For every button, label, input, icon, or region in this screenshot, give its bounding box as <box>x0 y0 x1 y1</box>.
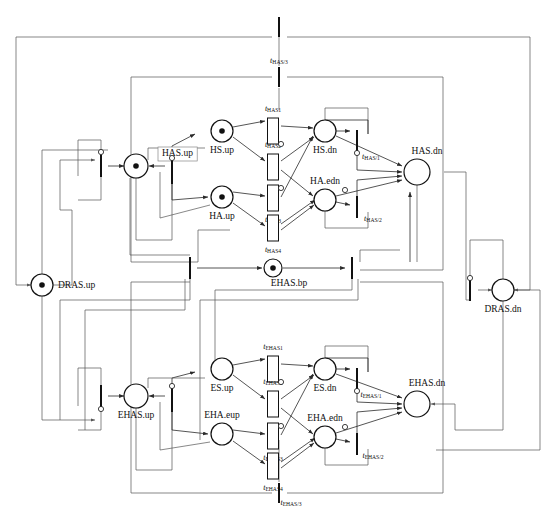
token-dot <box>39 282 45 288</box>
transition-t_hasr2[interactable]: tHAS/2 <box>357 196 382 224</box>
ehas-bp-arcs <box>60 230 400 440</box>
ehas-dn-arcs <box>325 346 402 465</box>
transition-t_hasr1[interactable]: tHAS/1 <box>357 130 380 162</box>
place-label: EHA.eup <box>204 410 240 420</box>
petri-net-canvas: HAS.upHS.upHA.upHS.dnHA.ednHAS.dnDRAS.up… <box>0 0 546 515</box>
token-dot <box>219 128 225 134</box>
token-dot <box>270 265 276 271</box>
inhibitor-icon <box>169 155 174 160</box>
place-label: ES.up <box>211 383 234 393</box>
transition-box[interactable] <box>268 453 279 479</box>
transition-t_ehasr1[interactable]: tEHAS/1 <box>357 368 382 400</box>
transition-label: tHAS4 <box>265 245 281 255</box>
inhibitor-icon <box>98 149 103 154</box>
place-hs-up[interactable]: HS.up <box>210 120 234 155</box>
place-label: DRAS.up <box>58 280 95 290</box>
transition-label: tEHAS4 <box>263 483 283 493</box>
transition-box[interactable] <box>268 118 279 144</box>
transition-label: tEHAS/3 <box>280 498 301 508</box>
place-dras-dn[interactable]: DRAS.dn <box>484 279 521 314</box>
place-circle[interactable] <box>314 189 336 211</box>
place-es-dn[interactable]: ES.dn <box>314 358 337 393</box>
ehas-block-frame <box>131 282 443 493</box>
petri-net-diagram: HAS.upHS.upHA.upHS.dnHA.ednHAS.dnDRAS.up… <box>0 0 546 515</box>
place-ha-up[interactable]: HA.up <box>209 186 235 221</box>
inhibitor-icon <box>467 275 472 280</box>
transition-box[interactable] <box>268 215 279 241</box>
inhibitor-icon <box>354 150 359 155</box>
place-ehas-bp[interactable]: EHAS.bp <box>264 259 308 288</box>
place-circle[interactable] <box>124 384 148 408</box>
place-ehas-up[interactable]: EHAS.up <box>118 384 155 420</box>
transition-box[interactable] <box>268 423 279 449</box>
inhibitor-icon <box>169 383 174 388</box>
place-circle[interactable] <box>314 358 336 380</box>
transition-label: tHAS/1 <box>362 152 380 162</box>
place-label: EHAS.bp <box>271 278 308 288</box>
transition-t_ehasr2[interactable]: tEHAS/2 <box>357 433 384 461</box>
place-es-up[interactable]: ES.up <box>211 358 234 393</box>
place-label: HS.up <box>210 145 234 155</box>
token-dot <box>133 163 139 169</box>
inhibitor-icon <box>342 187 347 192</box>
place-label: HAS.dn <box>412 146 443 156</box>
transition-label: tEHAS/1 <box>360 390 381 400</box>
place-eha-eup[interactable]: EHA.eup <box>204 410 240 445</box>
place-has-up[interactable]: HAS.up <box>124 147 197 178</box>
place-label: HA.up <box>209 211 235 221</box>
place-dras-up[interactable]: DRAS.up <box>31 274 95 296</box>
place-circle[interactable] <box>211 358 233 380</box>
transition-label: tEHAS1 <box>263 342 283 352</box>
inhibitor-icon <box>278 379 283 384</box>
place-ha-edn[interactable]: HA.edn <box>310 176 340 211</box>
transition-label: tEHAS/2 <box>362 451 383 461</box>
transition-t_has4[interactable]: tHAS4 <box>265 215 281 255</box>
transition-label: tHAS/2 <box>364 214 382 224</box>
place-label: ES.dn <box>314 383 337 393</box>
transition-t_ehas1[interactable]: tEHAS1 <box>263 342 283 382</box>
inhibitor-icon <box>278 185 283 190</box>
inhibitor-icon <box>278 141 283 146</box>
place-label: HA.edn <box>310 176 340 186</box>
transition-box[interactable] <box>268 154 279 180</box>
inhibitor-icon <box>278 423 283 428</box>
place-label: EHA.edn <box>307 413 343 423</box>
transition-t_has1[interactable]: tHAS1 <box>265 104 281 144</box>
place-circle[interactable] <box>211 423 233 445</box>
transition-t_has3[interactable]: tHAS/3 <box>270 56 288 87</box>
transition-box[interactable] <box>268 356 279 382</box>
inhibitor-icon <box>342 424 347 429</box>
inhibitor-icon <box>354 388 359 393</box>
transition-box[interactable] <box>268 185 279 211</box>
place-label: EHAS.dn <box>409 378 446 388</box>
place-circle[interactable] <box>314 426 336 448</box>
place-circle[interactable] <box>314 120 336 142</box>
place-hs-dn[interactable]: HS.dn <box>313 120 337 155</box>
place-eha-edn[interactable]: EHA.edn <box>307 413 343 448</box>
place-has-dn[interactable]: HAS.dn <box>404 146 443 185</box>
outer-frame-arcs <box>16 37 540 450</box>
place-circle[interactable] <box>492 279 514 301</box>
place-circle[interactable] <box>404 159 430 185</box>
token-dot <box>219 194 225 200</box>
place-label: HAS.up <box>162 148 193 158</box>
place-label: EHAS.up <box>118 410 155 420</box>
transition-box[interactable] <box>268 391 279 417</box>
place-label: HS.dn <box>313 145 337 155</box>
place-label: DRAS.dn <box>484 304 521 314</box>
place-circle[interactable] <box>404 391 430 417</box>
inhibitor-icon <box>98 406 103 411</box>
place-ehas-dn[interactable]: EHAS.dn <box>404 378 446 417</box>
